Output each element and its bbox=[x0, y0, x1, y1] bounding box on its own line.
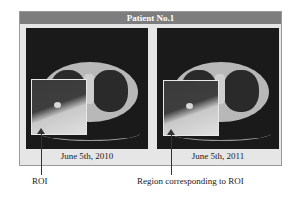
nodule bbox=[54, 102, 61, 108]
roi-label: ROI bbox=[32, 176, 48, 186]
ct-scan-2011 bbox=[157, 28, 279, 149]
region-pointer-line bbox=[171, 134, 172, 175]
roi-inset bbox=[31, 79, 87, 135]
panel-title: Patient No.1 bbox=[20, 12, 281, 24]
nodule bbox=[186, 103, 193, 109]
patient-panel: Patient No.1 June 5th, 2010 June 5th, 20… bbox=[19, 11, 282, 166]
date-label-2011: June 5th, 2011 bbox=[157, 151, 279, 161]
region-label: Region corresponding to ROI bbox=[137, 176, 244, 186]
roi-pointer-line bbox=[41, 133, 42, 175]
date-label-2010: June 5th, 2010 bbox=[26, 151, 148, 161]
right-lung bbox=[223, 70, 259, 112]
right-lung bbox=[92, 70, 128, 112]
roi-corresponding-inset bbox=[163, 80, 219, 136]
